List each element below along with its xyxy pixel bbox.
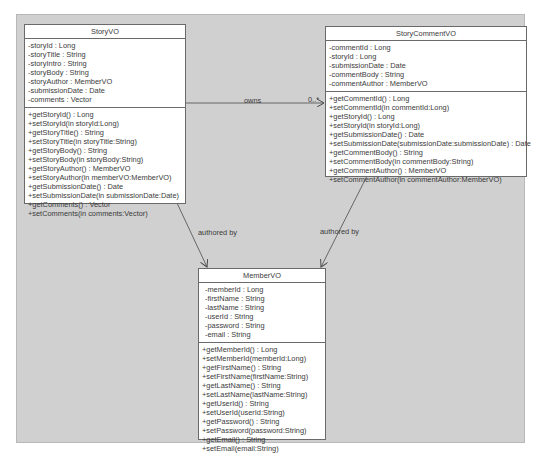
operation: +setUserId(userId:String): [202, 408, 322, 417]
operation: +getEmail() : String: [202, 435, 322, 444]
attribute: -memberId : Long: [205, 285, 322, 294]
operation: +setEmail(email:String): [202, 444, 322, 453]
operations-section: +getStoryId() : Long +setStoryId(in stor…: [25, 107, 185, 221]
operation: +setLastName(lastName:String): [202, 390, 322, 399]
operation: +setStoryAuthor(in memberVO:MemberVO): [28, 173, 182, 182]
operation: +getCommentAuthor() : MemberVO: [329, 166, 523, 175]
attribute: -firstName : String: [205, 294, 322, 303]
operation: +getLastName() : String: [202, 381, 322, 390]
class-story-comment-vo[interactable]: StoryCommentVO -commentId : Long -storyI…: [325, 26, 527, 177]
operation: +setStoryTitle(in storyTitle:String): [28, 137, 182, 146]
operation: +getStoryBody() : String: [28, 146, 182, 155]
class-name: MemberVO: [199, 269, 325, 283]
operation: +setComments(in comments:Vector): [28, 209, 182, 218]
class-member-vo[interactable]: MemberVO -memberId : Long -firstName : S…: [198, 268, 326, 440]
attribute: -submissionDate : Date: [28, 86, 182, 95]
attribute: -storyId : Long: [28, 41, 182, 50]
attribute: -lastName : String: [205, 303, 322, 312]
operation: +getPassword() : String: [202, 417, 322, 426]
owns-label: owns: [244, 96, 261, 105]
attribute: -storyIntro : String: [28, 59, 182, 68]
operation: +setPassword(password:String): [202, 426, 322, 435]
operation: +getStoryAuthor() : MemberVO: [28, 164, 182, 173]
attributes-section: -memberId : Long -firstName : String -la…: [199, 283, 325, 342]
attribute: -storyBody : String: [28, 68, 182, 77]
operation: +getStoryTitle() : String: [28, 128, 182, 137]
operation: +setStoryBody(in storyBody:String): [28, 155, 182, 164]
attribute: -storyAuthor : MemberVO: [28, 77, 182, 86]
owns-multiplicity: 0..*: [308, 95, 319, 104]
class-name: StoryVO: [25, 25, 185, 39]
operation: +getUserId() : String: [202, 399, 322, 408]
operation: +getCommentBody() : String: [329, 148, 523, 157]
attribute: -email : String: [205, 330, 322, 339]
operation: +setSubmissionDate(in submissionDate:Dat…: [28, 191, 182, 200]
operation: +setStoryId(in storyId:Long): [329, 121, 523, 130]
operation: +getFirstName() : String: [202, 363, 322, 372]
attribute: -commentBody : String: [329, 70, 523, 79]
attributes-section: -commentId : Long -storyId : Long -submi…: [326, 41, 526, 91]
attribute: -commentId : Long: [329, 43, 523, 52]
class-name: StoryCommentVO: [326, 27, 526, 41]
operation: +getComments() : Vector: [28, 200, 182, 209]
attribute: -submissionDate : Date: [329, 61, 523, 70]
operation: +setCommentId(in commentId:Long): [329, 103, 523, 112]
operation: +setCommentBody(in commentBody:String): [329, 157, 523, 166]
operation: +getSubmissionDate() : Date: [329, 130, 523, 139]
operation: +getCommentId() : Long: [329, 94, 523, 103]
operation: +setStoryId(in storyId:Long): [28, 119, 182, 128]
story-authored-by-label: authored by: [198, 228, 237, 237]
operation: +setFirstName(firstName:String): [202, 372, 322, 381]
operation: +setCommentAuthor(in commentAuthor:Membe…: [329, 175, 523, 184]
comment-authored-by-label: authored by: [320, 227, 359, 236]
attribute: -storyId : Long: [329, 52, 523, 61]
operation: +getMemberId() : Long: [202, 345, 322, 354]
operation: +setSubmissionDate(submissionDate:submis…: [329, 139, 523, 148]
attributes-section: -storyId : Long -storyTitle : String -st…: [25, 39, 185, 107]
class-story-vo[interactable]: StoryVO -storyId : Long -storyTitle : St…: [24, 24, 186, 204]
attribute: -password : String: [205, 321, 322, 330]
operation: +getStoryId() : Long: [329, 112, 523, 121]
attribute: -commentAuthor : MemberVO: [329, 79, 523, 88]
operation: +getSubmissionDate() : Date: [28, 182, 182, 191]
operations-section: +getMemberId() : Long +setMemberId(membe…: [199, 342, 325, 453]
attribute: -comments : Vector: [28, 95, 182, 104]
attribute: -userId : String: [205, 312, 322, 321]
attribute: -storyTitle : String: [28, 50, 182, 59]
operation: +getStoryId() : Long: [28, 110, 182, 119]
operations-section: +getCommentId() : Long +setCommentId(in …: [326, 91, 526, 187]
operation: +setMemberId(memberId:Long): [202, 354, 322, 363]
